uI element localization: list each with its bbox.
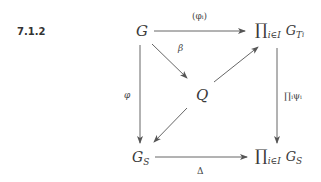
arrow-diag-q-gs <box>154 108 187 142</box>
node-G-S: GS <box>132 150 149 167</box>
label-phi-i: (φᵢ) <box>192 12 207 21</box>
base-G: G <box>286 23 296 38</box>
equation-number: 7.1.2 <box>17 26 45 37</box>
product-symbol: ∏ <box>255 146 268 165</box>
arrow-diag-q-top <box>214 47 258 82</box>
subscript-S: S <box>143 157 149 167</box>
product-index: i∈I <box>268 30 281 40</box>
label-beta: β <box>178 44 183 53</box>
product-index: i∈I <box>268 156 281 166</box>
node-product-G-S: ∏i∈I GS <box>255 148 302 166</box>
base-G: G <box>132 149 143 165</box>
base-G: G <box>286 149 296 164</box>
label-delta: Δ <box>197 167 204 176</box>
label-prod-psi: ∏ᵢψᵢ <box>284 92 302 101</box>
subscript-i: i <box>302 31 304 39</box>
node-product-G-T: ∏i∈I GTi <box>255 22 304 40</box>
subscript-S: S <box>296 156 302 166</box>
node-Q: Q <box>196 88 208 103</box>
label-phi: φ <box>124 91 130 100</box>
product-symbol: ∏ <box>255 20 268 39</box>
node-G: G <box>136 24 148 39</box>
